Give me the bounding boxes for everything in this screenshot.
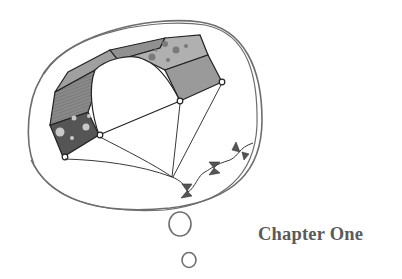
chapter-title: Chapter One — [258, 224, 363, 245]
thought-bubble-trail — [169, 212, 196, 268]
kite-tail — [172, 142, 253, 198]
kite-canopy — [50, 35, 222, 157]
